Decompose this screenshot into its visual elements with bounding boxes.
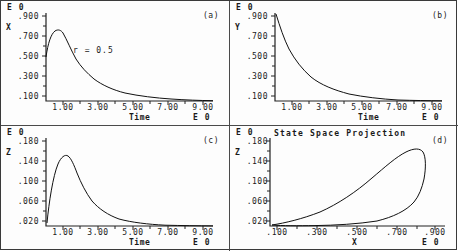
- panel-a: E 0 X (a) r = 0.5 .900 .700 .500 .300 .1…: [1, 1, 229, 125]
- panel-b-plot: [230, 1, 458, 125]
- panel-d-curve: [272, 149, 425, 226]
- panel-d-plot: [230, 126, 458, 250]
- panel-a-curve: [46, 30, 213, 101]
- panel-d-axes: [270, 138, 445, 226]
- panel-c: E 0 Z (c) .180 .140 .100 .060 .020 1.00 …: [1, 126, 229, 250]
- panel-a-axes: [46, 13, 213, 101]
- panel-b: E 0 Y (b) .900 .700 .500 .300 .100 1.00 …: [230, 1, 458, 125]
- panel-a-plot: [1, 1, 229, 125]
- panel-b-axes: [275, 13, 442, 101]
- panel-d-xticks-marks: [277, 226, 435, 230]
- panel-c-xticks-marks: [63, 226, 203, 230]
- panel-d: E 0 State Space Projection Z (d) .180 .1…: [230, 126, 458, 250]
- panel-d-yticks-marks: [266, 141, 270, 221]
- panel-b-yticks-marks: [271, 16, 275, 96]
- panel-c-curve: [47, 155, 213, 226]
- panel-c-plot: [1, 126, 229, 250]
- panel-b-curve: [276, 14, 442, 101]
- panel-c-axes: [46, 138, 213, 226]
